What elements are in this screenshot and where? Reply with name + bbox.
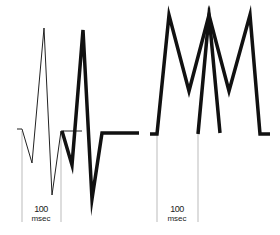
- right-scale-number: 100: [157, 205, 197, 214]
- right-scale-label: 100 msec: [157, 205, 197, 223]
- thin-waveform: [17, 28, 61, 195]
- left-scale-number: 100: [21, 205, 61, 214]
- right-panel: [150, 15, 270, 222]
- thick-waveform: [62, 30, 139, 199]
- left-scale-label: 100 msec: [21, 205, 61, 223]
- thick-waveform-a: [150, 15, 220, 134]
- thick-waveform-b: [198, 15, 270, 134]
- left-scale-unit: msec: [21, 214, 61, 223]
- left-panel: [17, 28, 139, 222]
- waveform-diagram: [0, 0, 280, 235]
- right-scale-unit: msec: [157, 214, 197, 223]
